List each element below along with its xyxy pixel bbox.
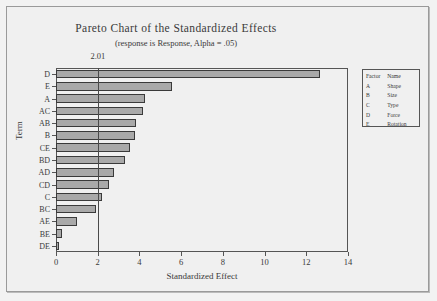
x-tick-label-14: 14 — [344, 257, 353, 267]
x-tick-label-4: 4 — [137, 257, 141, 267]
legend-name-A: Shape — [387, 82, 416, 92]
chart-subtitle: (response is Response, Alpha = .05) — [0, 38, 352, 48]
bar-AD — [56, 168, 114, 177]
legend-factor-B: B — [366, 91, 387, 101]
x-tick-label-0: 0 — [54, 257, 58, 267]
bar-CE — [56, 143, 130, 152]
legend-factor-D: D — [366, 111, 387, 121]
x-tick-mark-2 — [98, 252, 99, 256]
legend-header-name: Name — [387, 72, 416, 82]
legend-row: ERotation — [366, 120, 416, 130]
y-tick-mark-AE — [52, 221, 56, 222]
legend-row: DForce — [366, 111, 416, 121]
legend-body: AShapeBSizeCTypeDForceERotation — [366, 82, 416, 130]
bar-B — [56, 131, 135, 140]
y-tick-mark-D — [52, 74, 56, 75]
y-tick-label-AE: AE — [39, 217, 50, 226]
y-tick-label-CE: CE — [40, 143, 50, 152]
x-tick-mark-8 — [223, 252, 224, 256]
x-tick-mark-12 — [306, 252, 307, 256]
x-axis-title: Standardized Effect — [56, 271, 348, 281]
y-tick-label-AD: AD — [38, 168, 50, 177]
chart-title: Pareto Chart of the Standardized Effects — [0, 22, 352, 34]
bar-C — [56, 193, 102, 202]
y-tick-mark-BD — [52, 160, 56, 161]
x-tick-label-2: 2 — [96, 257, 100, 267]
y-tick-label-BE: BE — [40, 229, 50, 238]
legend-factor-E: E — [366, 120, 387, 130]
bar-DE — [56, 242, 59, 251]
y-tick-label-B: B — [45, 131, 50, 140]
y-tick-mark-E — [52, 86, 56, 87]
y-tick-label-AC: AC — [39, 106, 50, 115]
significance-reference-line — [98, 68, 99, 252]
legend-row: AShape — [366, 82, 416, 92]
y-tick-label-C: C — [45, 192, 50, 201]
plot-area — [56, 68, 348, 252]
bar-BC — [56, 205, 96, 214]
x-tick-mark-4 — [139, 252, 140, 256]
y-tick-label-E: E — [45, 82, 50, 91]
bar-BE — [56, 229, 62, 238]
bar-D — [56, 70, 320, 79]
y-tick-mark-CE — [52, 148, 56, 149]
bar-CD — [56, 180, 109, 189]
y-tick-mark-DE — [52, 246, 56, 247]
legend-row: BSize — [366, 91, 416, 101]
bar-AC — [56, 107, 143, 116]
y-tick-mark-BE — [52, 234, 56, 235]
x-tick-mark-0 — [56, 252, 57, 256]
y-axis-title: Term — [14, 121, 24, 140]
bar-E — [56, 82, 172, 91]
legend-header-factor: Factor — [366, 72, 387, 82]
legend-row: CType — [366, 101, 416, 111]
legend-factor-A: A — [366, 82, 387, 92]
x-tick-mark-14 — [348, 252, 349, 256]
x-tick-label-10: 10 — [260, 257, 269, 267]
legend-table: Factor Name AShapeBSizeCTypeDForceERotat… — [366, 72, 416, 130]
legend-name-E: Rotation — [387, 120, 416, 130]
legend-name-C: Type — [387, 101, 416, 111]
y-tick-label-A: A — [44, 94, 50, 103]
x-tick-mark-10 — [265, 252, 266, 256]
y-tick-label-D: D — [44, 70, 50, 79]
y-tick-label-AB: AB — [39, 119, 50, 128]
y-tick-mark-BC — [52, 209, 56, 210]
legend-factor-C: C — [366, 101, 387, 111]
bar-AE — [56, 217, 77, 226]
x-tick-label-12: 12 — [302, 257, 311, 267]
legend-name-B: Size — [387, 91, 416, 101]
legend-name-D: Force — [387, 111, 416, 121]
bar-BD — [56, 156, 125, 165]
x-tick-mark-6 — [181, 252, 182, 256]
y-tick-mark-CD — [52, 185, 56, 186]
legend-header-row: Factor Name — [366, 72, 416, 82]
y-tick-mark-AD — [52, 172, 56, 173]
y-tick-mark-AB — [52, 123, 56, 124]
significance-reference-label: 2.01 — [90, 51, 105, 61]
y-tick-mark-A — [52, 99, 56, 100]
x-tick-label-8: 8 — [221, 257, 225, 267]
factor-legend: Factor Name AShapeBSizeCTypeDForceERotat… — [362, 69, 420, 127]
y-tick-label-CD: CD — [39, 180, 50, 189]
x-tick-label-6: 6 — [179, 257, 183, 267]
y-tick-mark-C — [52, 197, 56, 198]
y-tick-mark-B — [52, 135, 56, 136]
y-tick-label-BC: BC — [39, 205, 50, 214]
bar-A — [56, 94, 145, 103]
y-tick-mark-AC — [52, 111, 56, 112]
y-tick-label-DE: DE — [39, 241, 50, 250]
bar-AB — [56, 119, 136, 128]
chart-canvas: Pareto Chart of the Standardized Effects… — [0, 0, 437, 301]
y-tick-label-BD: BD — [39, 156, 50, 165]
